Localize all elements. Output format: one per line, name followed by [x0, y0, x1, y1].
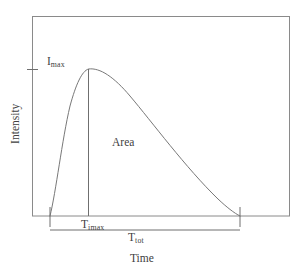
timax-label: Timax [81, 219, 104, 231]
timax-label-subscript: imax [88, 223, 104, 232]
intensity-time-chart: Imax Timax Ttot Area Time Intensity [0, 0, 308, 274]
timax-label-base: T [81, 218, 88, 230]
y-axis-label: Intensity [10, 94, 22, 154]
intensity-curve [50, 69, 240, 216]
chart-canvas [0, 0, 308, 274]
imax-label: Imax [47, 56, 65, 68]
area-label: Area [112, 137, 134, 149]
x-axis-label: Time [130, 253, 154, 265]
plot-frame [33, 17, 290, 217]
imax-label-subscript: max [51, 60, 65, 69]
ttot-label-subscript: tot [135, 236, 144, 245]
ttot-label: Ttot [128, 232, 144, 244]
ttot-label-base: T [128, 231, 135, 243]
